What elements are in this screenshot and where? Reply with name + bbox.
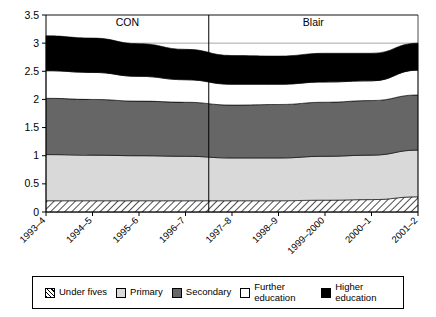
plot-svg: 00.511.522.533.5 1993–41994–51995–61996–… [0, 0, 436, 317]
y-tick-label: 3 [33, 37, 39, 49]
legend-label: Primary [130, 287, 163, 298]
legend-item-further-education[interactable]: Further education [231, 282, 312, 303]
x-tick-label: 1996–7 [157, 215, 187, 245]
y-tick-label: 2.5 [24, 65, 39, 77]
black-swatch-icon [321, 288, 331, 298]
legend-item-under-fives[interactable]: Under fives [33, 287, 107, 298]
chart-root: 00.511.522.533.5 1993–41994–51995–61996–… [0, 0, 436, 317]
x-tick-label: 2001–2 [389, 215, 419, 245]
legend-label: Secondary [186, 287, 231, 298]
area-bands [46, 36, 418, 212]
legend-label: Further education [254, 282, 312, 303]
period-label: Blair [303, 16, 325, 28]
x-tick-label: 1999–2000 [285, 215, 326, 256]
hatched-swatch-icon [45, 288, 55, 298]
dark-gray-swatch-icon [172, 288, 182, 298]
legend-label: Under fives [59, 287, 107, 298]
x-tick-label: 1994–5 [64, 215, 94, 245]
y-tick-label: 3.5 [24, 9, 39, 21]
light-gray-swatch-icon [116, 288, 126, 298]
y-tick-label: 1 [33, 149, 39, 161]
x-tick-label: 1993–4 [17, 215, 47, 245]
period-label: CON [116, 16, 139, 28]
legend-item-higher-education[interactable]: Higher education [312, 282, 393, 303]
legend-item-secondary[interactable]: Secondary [163, 287, 231, 298]
chart-legend: Under fives Primary Secondary Further ed… [32, 276, 404, 309]
y-tick-label: 1.5 [24, 121, 39, 133]
x-axis-tick-labels: 1993–41994–51995–61996–71997–81998–91999… [17, 215, 419, 256]
y-tick-label: 0.5 [24, 177, 39, 189]
stacked-area-chart: 00.511.522.533.5 1993–41994–51995–61996–… [0, 0, 436, 317]
white-swatch-icon [240, 288, 250, 298]
legend-item-primary[interactable]: Primary [107, 287, 163, 298]
x-tick-label: 2000–1 [343, 215, 373, 245]
legend-label: Higher education [335, 282, 393, 303]
y-axis-tick-labels: 00.511.522.533.5 [24, 9, 39, 218]
period-annotations: CONBlair [116, 16, 325, 28]
x-tick-label: 1995–6 [110, 215, 140, 245]
x-tick-label: 1997–8 [203, 215, 233, 245]
y-tick-label: 2 [33, 93, 39, 105]
x-tick-label: 1998–9 [250, 215, 280, 245]
